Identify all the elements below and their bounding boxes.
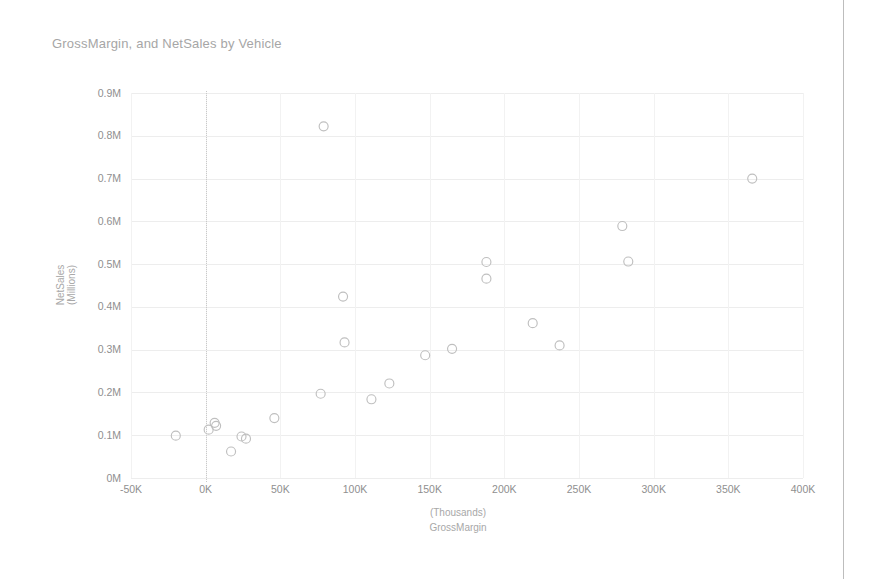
y-tick-label: 0.6M <box>98 215 121 227</box>
y-tick-label: 0.7M <box>98 172 121 184</box>
y-tick-label: 0.4M <box>98 300 121 312</box>
y-axis-title: NetSales(Millions) <box>55 265 77 306</box>
scatter-point <box>748 174 757 183</box>
x-tick-label: 0K <box>199 483 212 495</box>
y-axis-title-line: (Millions) <box>66 265 77 305</box>
scatter-point <box>227 447 236 456</box>
chart-page: GrossMargin, and NetSales by Vehicle 0M0… <box>0 0 870 579</box>
x-tick-label: 250K <box>567 483 592 495</box>
y-tick-label: 0.1M <box>98 429 121 441</box>
x-tick-label: 300K <box>641 483 666 495</box>
x-axis-title-line: (Thousands) <box>430 507 486 518</box>
x-tick-label: 350K <box>716 483 741 495</box>
scatter-point <box>421 351 430 360</box>
scatter-point <box>270 414 279 423</box>
x-tick-label: 100K <box>343 483 368 495</box>
x-tick-label: 400K <box>791 483 816 495</box>
scatter-point <box>316 389 325 398</box>
y-tick-label: 0.8M <box>98 129 121 141</box>
scatter-plot-svg: 0M0.1M0.2M0.3M0.4M0.5M0.6M0.7M0.8M0.9M -… <box>0 0 870 579</box>
vertical-gridlines <box>132 93 804 478</box>
y-tick-label: 0.5M <box>98 258 121 270</box>
x-tick-label: 200K <box>492 483 517 495</box>
horizontal-gridlines <box>131 94 803 479</box>
x-tick-label: -50K <box>120 483 142 495</box>
scatter-point <box>482 257 491 266</box>
scatter-point <box>339 292 348 301</box>
scatter-point <box>319 122 328 131</box>
y-tick-label: 0.2M <box>98 386 121 398</box>
x-tick-label: 150K <box>417 483 442 495</box>
y-tick-label: 0.3M <box>98 343 121 355</box>
scatter-point <box>340 338 349 347</box>
scatter-point <box>448 344 457 353</box>
scatter-point <box>367 395 376 404</box>
scatter-point <box>482 274 491 283</box>
chart-plot-area: 0M0.1M0.2M0.3M0.4M0.5M0.6M0.7M0.8M0.9M -… <box>0 0 870 579</box>
y-axis-title-line: NetSales <box>55 265 66 306</box>
y-tick-label: 0M <box>106 472 121 484</box>
scatter-point <box>555 341 564 350</box>
x-axis-title-line: GrossMargin <box>429 522 486 533</box>
scatter-markers <box>171 122 756 456</box>
scatter-point <box>528 319 537 328</box>
x-tick-label: 50K <box>271 483 290 495</box>
scatter-point <box>212 421 221 430</box>
pane-divider <box>843 0 844 579</box>
x-axis-title: (Thousands)GrossMargin <box>429 507 486 533</box>
scatter-point <box>618 222 627 231</box>
y-tick-label: 0.9M <box>98 87 121 99</box>
y-axis-tick-labels: 0M0.1M0.2M0.3M0.4M0.5M0.6M0.7M0.8M0.9M <box>98 87 121 484</box>
scatter-point <box>385 379 394 388</box>
x-axis-tick-labels: -50K0K50K100K150K200K250K300K350K400K <box>120 483 815 495</box>
